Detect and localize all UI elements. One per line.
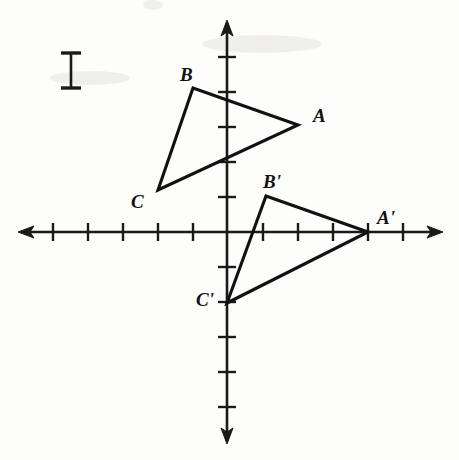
vertex-label-b: B — [179, 64, 193, 85]
vertex-label-a-prime: A' — [376, 207, 395, 228]
triangle-a-prime-b-prime-c-prime — [227, 196, 368, 303]
geometry-figure: A B C A' B' C' — [0, 0, 459, 460]
vertex-label-b-prime: B' — [262, 171, 281, 192]
coordinate-plane-diagram: A B C A' B' C' — [0, 0, 459, 460]
vertex-label-c: C — [131, 191, 144, 212]
vertex-label-a: A — [312, 105, 326, 126]
vertex-label-c-prime: C' — [196, 289, 214, 310]
